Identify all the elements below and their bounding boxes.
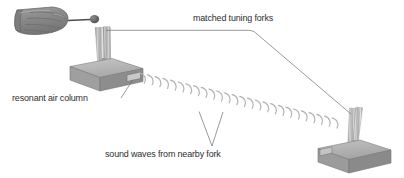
mallet-shaft: [68, 20, 90, 21]
mallet-head: [90, 15, 99, 23]
label-matched-tuning-forks: matched tuning forks: [193, 12, 273, 23]
label-sound-waves-from-nearby-fork: sound waves from nearby fork: [105, 148, 221, 159]
diagram-canvas: matched tuning forks resonant air column…: [0, 0, 404, 178]
left-fork-tine-back: [103, 27, 110, 62]
label-resonant-air-column: resonant air column: [12, 92, 88, 103]
